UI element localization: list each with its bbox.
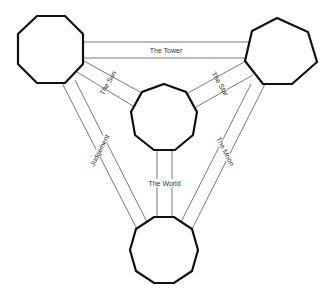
node-decagon [130, 217, 198, 283]
edge-the-sun: The Sun [77, 61, 140, 106]
edge-the-tower: The Tower [83, 42, 250, 58]
edge-the-world: The World [146, 150, 183, 217]
edge-label-the-world: The World [148, 180, 180, 187]
edge-label-the-sun: The Sun [98, 69, 117, 96]
node-octagon [18, 16, 83, 83]
edge-label-the-tower: The Tower [150, 47, 183, 54]
node-heptagon [245, 18, 317, 84]
node-nonagon [131, 84, 197, 150]
edge-judgement: Judgement [62, 80, 147, 229]
edge-label-judgement: Judgement [89, 133, 112, 168]
diagram-canvas: The Tower The Sun The Star Judgement The… [0, 0, 322, 299]
